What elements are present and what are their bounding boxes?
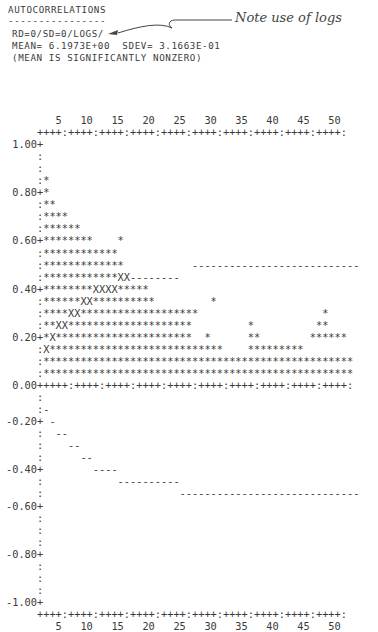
plot-row: : — [6, 512, 359, 524]
plot-row: :**XX******************** * ** — [6, 319, 359, 331]
plot-row: : ---------- — [6, 475, 359, 487]
plot-row: : — [6, 572, 359, 584]
plot-row: : ----------------------------- — [6, 487, 359, 499]
plot-row: -0.40+ ---- — [6, 463, 359, 475]
plot-row: : — [6, 150, 359, 162]
plot-row: :** — [6, 198, 359, 210]
plot-row: 1.00+ — [6, 138, 359, 150]
plot-row: -0.80+ — [6, 548, 359, 560]
plot-row: : — [6, 162, 359, 174]
plot-row: :************ — [6, 247, 359, 259]
annotation-arrow-icon — [0, 0, 378, 60]
plot-row: ++++:++++:++++:++++:++++:++++:++++:++++:… — [6, 608, 359, 620]
plot-row: :- — [6, 403, 359, 415]
plot-row: 0.80+* — [6, 186, 359, 198]
plot-row: : — [6, 560, 359, 572]
autocorrelation-plot: 5 10 15 20 25 30 35 40 45 50 ++++:++++:+… — [6, 114, 359, 632]
plot-row: 5 10 15 20 25 30 35 40 45 50 — [6, 620, 359, 632]
plot-row: :****XX******************* * — [6, 307, 359, 319]
plot-row: : -- — [6, 451, 359, 463]
plot-row: :X**************************** ********* — [6, 343, 359, 355]
annotation-note: Note use of logs — [235, 10, 342, 25]
plot-row: : — [6, 524, 359, 536]
plot-row: :* — [6, 174, 359, 186]
plot-row: -0.20+ - — [6, 415, 359, 427]
plot-row: :***************************************… — [6, 367, 359, 379]
plot-row: : -- — [6, 427, 359, 439]
plot-row: :***************************************… — [6, 355, 359, 367]
plot-row: -0.60+ — [6, 500, 359, 512]
plot-row: 0.20+*X********************** * ** *****… — [6, 331, 359, 343]
plot-row: :************* -------------------------… — [6, 259, 359, 271]
plot-row: 5 10 15 20 25 30 35 40 45 50 — [6, 114, 359, 126]
plot-row: : — [6, 584, 359, 596]
plot-row: :************XX-------- — [6, 271, 359, 283]
plot-row: :**** — [6, 210, 359, 222]
plot-row: :******XX********** * — [6, 295, 359, 307]
plot-row: :****** — [6, 222, 359, 234]
plot-row: : -- — [6, 439, 359, 451]
plot-row: : — [6, 391, 359, 403]
plot-row: 0.00+++++:++++:++++:++++:++++:++++:++++:… — [6, 379, 359, 391]
plot-row: 0.60+******** * — [6, 234, 359, 246]
plot-row: 0.40+********XXXX***** — [6, 283, 359, 295]
plot-row: -1.00+ — [6, 596, 359, 608]
plot-row: : — [6, 536, 359, 548]
plot-row: ++++:++++:++++:++++:++++:++++:++++:++++:… — [6, 126, 359, 138]
